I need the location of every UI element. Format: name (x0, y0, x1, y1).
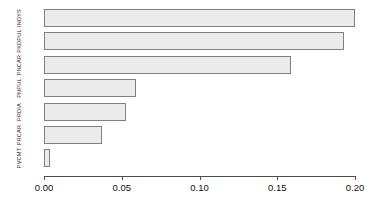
bar-row (44, 149, 355, 167)
y-axis-tick-label: PRCAR (0, 126, 38, 144)
x-axis-tick-label: 0.15 (268, 182, 287, 193)
y-axis-tick-label: PNCAR (0, 56, 38, 74)
bar (44, 9, 355, 27)
y-axis-tick-label-text: PRDIA (16, 103, 22, 121)
bar (44, 126, 102, 144)
x-axis-tick (200, 176, 201, 180)
x-axis-tick-label: 0.05 (113, 182, 132, 193)
y-axis-tick-label: PKDPUL (0, 32, 38, 50)
bar-chart: INDYSPKDPULPNCARPNPULPRDIAPRCARPVCMT 0.0… (0, 0, 379, 205)
bar (44, 56, 291, 74)
y-axis-tick-label-text: PNCAR (16, 55, 22, 76)
x-axis-tick (355, 176, 356, 180)
bar (44, 79, 136, 97)
y-axis-tick-label: PNPUL (0, 79, 38, 97)
bar (44, 103, 126, 121)
y-axis-tick-label: PRDIA (0, 103, 38, 121)
bar-row (44, 79, 355, 97)
bar-row (44, 126, 355, 144)
bar-row (44, 9, 355, 27)
bar-row (44, 103, 355, 121)
x-axis-tick (44, 176, 45, 180)
y-axis-tick-label: INDYS (0, 9, 38, 27)
y-axis-tick-label-text: PKDPUL (16, 30, 22, 54)
bar (44, 32, 344, 50)
y-axis-tick-label-text: PRCAR (16, 125, 22, 146)
bar (44, 149, 50, 167)
x-axis-tick (122, 176, 123, 180)
bar-row (44, 56, 355, 74)
y-axis-tick-label-text: PVCMT (16, 148, 22, 169)
y-axis-tick-label-text: INDYS (16, 9, 22, 27)
x-axis-tick-label: 0.20 (346, 182, 365, 193)
x-axis-tick-label: 0.00 (35, 182, 54, 193)
x-axis-tick (277, 176, 278, 180)
bar-row (44, 32, 355, 50)
y-axis-tick-label-text: PNPUL (16, 78, 22, 98)
y-axis-tick-label: PVCMT (0, 149, 38, 167)
x-axis-tick-label: 0.10 (190, 182, 209, 193)
plot-area (44, 5, 355, 170)
